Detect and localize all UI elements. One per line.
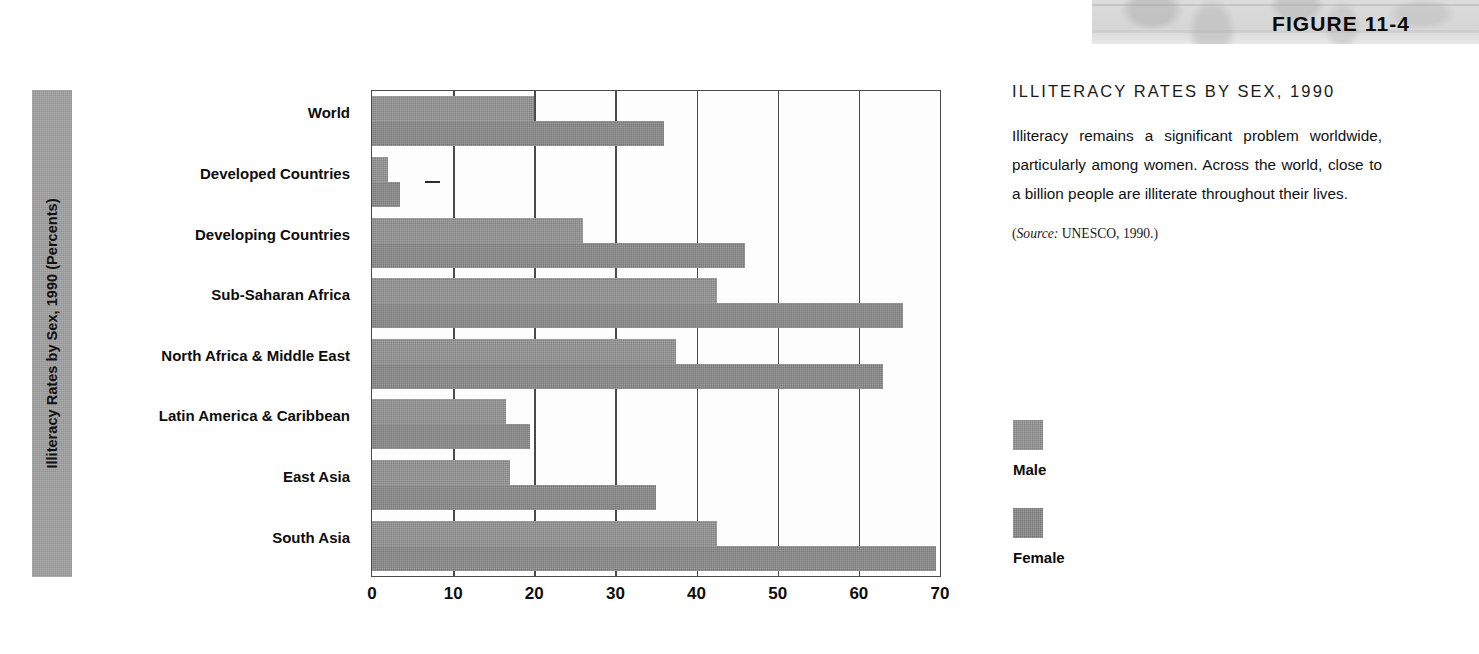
legend-swatch-male [1013, 420, 1043, 450]
x-tick-label-0: 0 [367, 584, 376, 604]
bar-group-south-asia [372, 521, 940, 571]
bar-female-developing-countries [372, 243, 745, 268]
bar-female-world [372, 121, 664, 146]
bar-male-sub-saharan-africa [372, 278, 717, 303]
category-axis-labels: WorldDeveloped CountriesDeveloping Count… [70, 91, 350, 576]
caption-source-line: (Source: UNESCO, 1990.) [1012, 226, 1410, 242]
header-band-streak [1092, 4, 1479, 6]
category-label-latin-america-caribbean: Latin America & Caribbean [159, 408, 350, 424]
bar-male-developing-countries [372, 218, 583, 243]
bar-male-south-asia [372, 521, 717, 546]
source-text: UNESCO, 1990.) [1058, 226, 1158, 241]
y-axis-title-band [32, 90, 72, 577]
bar-male-east-asia [372, 460, 510, 485]
legend-label-male: Male [1013, 461, 1065, 478]
category-label-north-africa-middle-east: North Africa & Middle East [161, 348, 350, 364]
bar-female-north-africa-middle-east [372, 364, 883, 389]
bar-group-world [372, 96, 940, 146]
bar-male-north-africa-middle-east [372, 339, 676, 364]
chart-legend: Male Female [1013, 420, 1065, 596]
x-tick-label-60: 60 [849, 584, 868, 604]
legend-swatch-female [1013, 508, 1043, 538]
category-label-developing-countries: Developing Countries [195, 227, 350, 243]
bar-group-developed-countries [372, 157, 940, 207]
caption-title: ILLITERACY RATES BY SEX, 1990 [1012, 82, 1410, 101]
bar-group-sub-saharan-africa [372, 278, 940, 328]
legend-label-female: Female [1013, 549, 1065, 566]
bar-female-south-asia [372, 546, 936, 571]
category-label-south-asia: South Asia [272, 530, 350, 546]
bar-female-latin-america-caribbean [372, 424, 530, 449]
bar-female-east-asia [372, 485, 656, 510]
chart-bars-layer [372, 91, 940, 576]
x-tick-label-30: 30 [606, 584, 625, 604]
bar-female-developed-countries [372, 182, 400, 207]
x-tick-label-70: 70 [931, 584, 950, 604]
x-tick-label-20: 20 [525, 584, 544, 604]
x-tick-label-10: 10 [444, 584, 463, 604]
bar-male-developed-countries [372, 157, 388, 182]
source-label: Source: [1017, 226, 1059, 241]
bar-group-latin-america-caribbean [372, 399, 940, 449]
figure-number-label: FIGURE 11-4 [1272, 12, 1410, 36]
bar-group-east-asia [372, 460, 940, 510]
bar-male-latin-america-caribbean [372, 399, 506, 424]
bar-group-north-africa-middle-east [372, 339, 940, 389]
category-label-sub-saharan-africa: Sub-Saharan Africa [211, 287, 350, 303]
category-label-world: World [308, 105, 350, 121]
legend-item-male: Male [1013, 420, 1065, 478]
bar-male-world [372, 96, 534, 121]
x-tick-label-50: 50 [768, 584, 787, 604]
category-label-developed-countries: Developed Countries [200, 166, 350, 182]
caption-column: ILLITERACY RATES BY SEX, 1990 Illiteracy… [1012, 82, 1410, 242]
legend-item-female: Female [1013, 508, 1065, 566]
x-tick-label-40: 40 [687, 584, 706, 604]
caption-body-text: Illiteracy remains a significant problem… [1012, 121, 1382, 208]
category-label-east-asia: East Asia [283, 469, 350, 485]
x-axis-tick-labels: 010203040506070 [371, 584, 941, 614]
bar-female-sub-saharan-africa [372, 303, 903, 328]
bar-group-developing-countries [372, 218, 940, 268]
